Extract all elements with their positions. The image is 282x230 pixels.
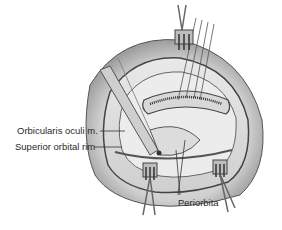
surgical-illustration: Orbicularis oculi m. Superior orbital ri… [0,0,282,230]
label-orbicularis-oculi: Orbicularis oculi m. [17,126,98,136]
orbit-exposure-drawing [0,0,282,230]
vessel [157,151,162,156]
label-superior-orbital-rim: Superior orbital rim [15,142,95,152]
label-periorbita: Periorbita [178,198,219,208]
top-retractor [175,5,193,50]
